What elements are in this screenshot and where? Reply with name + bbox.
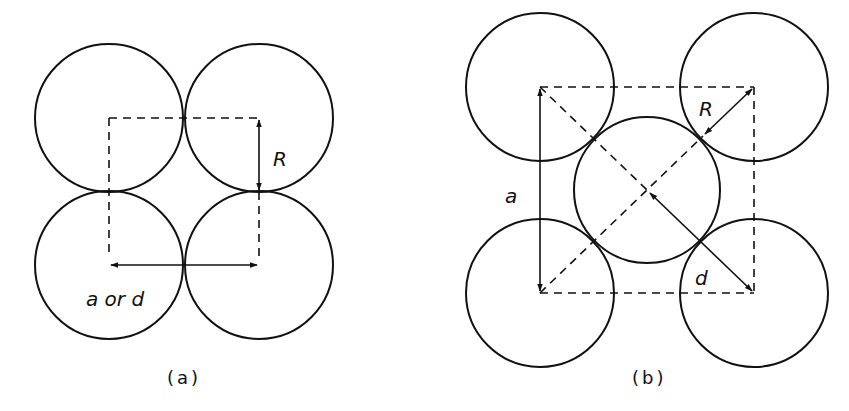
radius-label: R xyxy=(699,97,713,121)
lattice-label: a xyxy=(505,184,517,208)
panel-a-circles xyxy=(35,44,333,339)
panel-a-caption: (a) xyxy=(167,367,201,388)
panel-a: a or d R (a) xyxy=(35,44,333,388)
dashed-diagonal-bl-tr xyxy=(540,136,703,293)
panel-b-circles xyxy=(466,13,828,367)
distance-label: d xyxy=(695,266,708,290)
panel-a-dashed-square xyxy=(109,118,259,262)
sphere-packing-diagram: a or d R (a) a R d (b) xyxy=(0,0,849,411)
spacing-label: a or d xyxy=(86,287,144,311)
circle-center xyxy=(574,117,720,263)
radius-label: R xyxy=(273,147,287,171)
dashed-diagonal-tl-br xyxy=(540,87,647,190)
panel-b: a R d (b) xyxy=(466,13,828,388)
panel-b-caption: (b) xyxy=(632,367,666,388)
